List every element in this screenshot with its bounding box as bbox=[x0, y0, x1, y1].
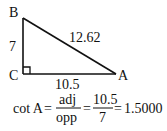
formula-equals-2: = bbox=[83, 101, 91, 116]
side-label-ba: 12.62 bbox=[69, 30, 101, 45]
side-ba bbox=[23, 18, 116, 74]
side-label-bc: 7 bbox=[9, 39, 16, 54]
fraction-2-denominator: 7 bbox=[99, 110, 106, 125]
fraction-1-denominator: opp bbox=[56, 110, 77, 125]
right-angle-marker bbox=[23, 67, 30, 74]
formula-lhs: cot A bbox=[13, 101, 44, 116]
cot-formula: cot A = adj opp = 10.5 7 = 1.5000 bbox=[13, 92, 163, 125]
side-label-ca: 10.5 bbox=[55, 77, 80, 92]
formula-result: 1.5000 bbox=[124, 101, 163, 116]
fraction-1-numerator: adj bbox=[59, 92, 76, 107]
vertex-label-a: A bbox=[118, 68, 129, 83]
vertex-label-c: C bbox=[9, 68, 18, 83]
formula-equals-1: = bbox=[44, 101, 52, 116]
formula-equals-3: = bbox=[114, 101, 122, 116]
triangle-diagram: B C A 7 12.62 10.5 cot A = adj opp = 10.… bbox=[0, 0, 167, 131]
vertex-label-b: B bbox=[9, 5, 18, 20]
